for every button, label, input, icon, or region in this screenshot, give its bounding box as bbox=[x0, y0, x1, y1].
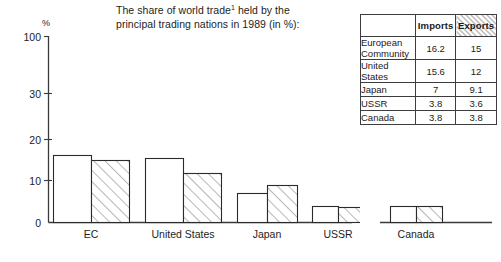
bar-ec-imports bbox=[54, 156, 92, 223]
category-label-canada: Canada bbox=[398, 228, 435, 240]
bar-japan-imports bbox=[238, 194, 268, 223]
category-label-ussr: USSR bbox=[323, 228, 353, 240]
table-row: Japan 7 9.1 bbox=[361, 83, 497, 97]
category-label-united-states: United States bbox=[151, 228, 214, 240]
table-row: Canada 3.8 3.8 bbox=[361, 111, 497, 125]
bar-united-states-imports bbox=[146, 159, 184, 223]
table-header-row: Imports Exports bbox=[361, 15, 497, 37]
table-cell-country: United States bbox=[361, 60, 416, 83]
y-tick-label-30: 30 bbox=[29, 88, 41, 100]
table-cell-exports: 12 bbox=[456, 60, 497, 83]
bar-japan-exports bbox=[268, 186, 298, 223]
data-table-container: Imports Exports European Community 16.2 … bbox=[360, 14, 497, 125]
table-cell-exports: 3.6 bbox=[456, 97, 497, 111]
chart-page: The share of world trade1 held by the pr… bbox=[0, 0, 501, 262]
y-tick-label-100: 100 bbox=[23, 31, 41, 43]
bar-ec-exports bbox=[92, 161, 130, 223]
table-cell-imports: 16.2 bbox=[416, 37, 456, 60]
bar-ussr-exports bbox=[339, 208, 361, 223]
table-cell-imports: 15.6 bbox=[416, 60, 456, 83]
category-label-japan: Japan bbox=[253, 228, 282, 240]
table-cell-imports: 3.8 bbox=[416, 97, 456, 111]
bar-united-states-exports bbox=[184, 174, 222, 223]
bar-ussr-imports bbox=[313, 207, 339, 223]
table-cell-exports: 15 bbox=[456, 37, 497, 60]
table-cell-country: Canada bbox=[361, 111, 416, 125]
y-tick-label-20: 20 bbox=[29, 134, 41, 146]
category-label-ec: EC bbox=[84, 228, 99, 240]
table-cell-country: Japan bbox=[361, 83, 416, 97]
table-cell-imports: 3.8 bbox=[416, 111, 456, 125]
table-row: European Community 16.2 15 bbox=[361, 37, 497, 60]
table-cell-imports: 7 bbox=[416, 83, 456, 97]
bar-chart: % 100 30 20 10 0 bbox=[0, 0, 360, 262]
trade-data-table: Imports Exports European Community 16.2 … bbox=[360, 14, 497, 125]
table-cell-exports: 3.8 bbox=[456, 111, 497, 125]
bar-canada-exports bbox=[417, 207, 443, 223]
table-row: United States 15.6 12 bbox=[361, 60, 497, 83]
y-tick-label-10: 10 bbox=[29, 175, 41, 187]
table-header-blank bbox=[361, 15, 416, 37]
country-name-line-2: Community bbox=[361, 48, 409, 59]
table-header-exports: Exports bbox=[456, 15, 497, 37]
table-row: USSR 3.8 3.6 bbox=[361, 97, 497, 111]
bar-canada-imports bbox=[391, 207, 417, 223]
bar-chart-svg: % 100 30 20 10 0 bbox=[0, 0, 360, 262]
table-cell-exports: 9.1 bbox=[456, 83, 497, 97]
y-tick-label-0: 0 bbox=[35, 217, 41, 229]
country-name-line-1: United bbox=[361, 60, 388, 71]
country-name-line-2: States bbox=[361, 71, 388, 82]
y-axis-unit-label: % bbox=[42, 18, 50, 28]
table-header: Imports Exports bbox=[361, 15, 497, 37]
table-body: European Community 16.2 15 United States… bbox=[361, 37, 497, 125]
table-cell-country: USSR bbox=[361, 97, 416, 111]
table-cell-country: European Community bbox=[361, 37, 416, 60]
table-header-imports: Imports bbox=[416, 15, 456, 37]
country-name-line-1: European bbox=[361, 37, 402, 48]
